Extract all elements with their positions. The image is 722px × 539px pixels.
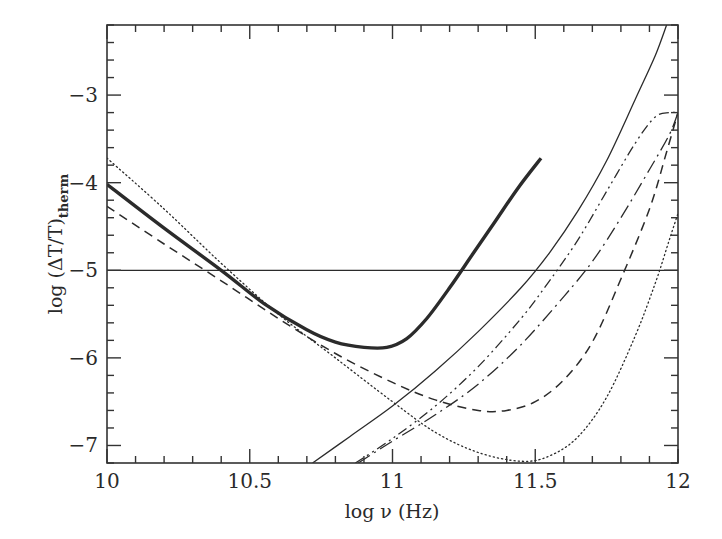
x-tick-labels: 1010.51111.512 [94,469,690,493]
x-tick-label: 11.5 [513,469,558,493]
y-tick-label: −6 [69,346,98,370]
x-tick-label: 11 [380,469,405,493]
y-tick-label: −3 [69,83,98,107]
x-axis-label: log ν (Hz) [345,500,440,522]
series-thin-solid [313,25,667,463]
series-dash-dot-dot [355,112,678,463]
plot-frame [107,25,678,463]
y-tick-label: −4 [69,171,98,195]
x-tick-label: 12 [665,469,690,493]
series-dashed [107,113,678,412]
y-tick-label: −7 [69,433,98,457]
chart: 1010.51111.512 −3−4−5−6−7 log ν (Hz) log… [0,0,722,539]
y-axis-label-subscript: therm [56,174,71,219]
series-dotted [107,158,678,461]
x-tick-label: 10 [94,469,119,493]
x-tick-label: 10.5 [227,469,272,493]
y-tick-label: −5 [69,258,98,282]
y-tick-labels: −3−4−5−6−7 [69,83,98,457]
series-thick-solid [107,158,541,348]
series-layer [107,25,678,463]
series-long-dash-dot [358,113,678,463]
svg-text:log (ΔT/T)therm: log (ΔT/T)therm [44,174,71,315]
axis-ticks [107,25,678,463]
y-axis-label: log (ΔT/T)therm [44,174,71,315]
y-axis-label-main: log (ΔT/T) [44,218,66,314]
